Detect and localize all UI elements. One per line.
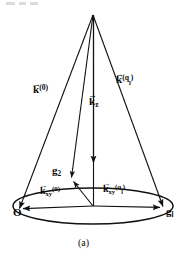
vector-arrow-icon: → (115, 70, 124, 79)
label-k-xy-zero: →kxy(0) (40, 186, 60, 198)
vector-symbol-k: →k (116, 74, 122, 85)
vector-k-ql (93, 15, 163, 207)
vector-symbol-k: →k (89, 96, 95, 107)
label-k-zero: →k(0) (33, 84, 48, 95)
vector-k-xy-ql (93, 206, 160, 207)
vector-arrow-icon: → (32, 80, 41, 89)
vector-arrow-icon: → (39, 182, 47, 190)
figure-container: →k(0) →k(ql) →kz →kxy(0) →kxy(ql) g2 O g… (0, 0, 184, 261)
label-k-ql: →k(ql) (116, 74, 133, 87)
label-g-two: g2 (52, 165, 61, 178)
vector-k-xy-g2 (74, 182, 94, 207)
vector-arrow-icon: → (102, 180, 110, 188)
vector-arrow-icon: → (88, 91, 97, 100)
cone-diagram-svg (0, 0, 184, 261)
label-k-xy-ql: →kxy(ql) (103, 184, 125, 196)
vector-symbol-k: →k (103, 184, 109, 194)
vector-k-zero (20, 15, 94, 209)
vector-symbol-k: →k (40, 186, 46, 196)
label-origin: O (13, 207, 22, 218)
label-g-l: gl (166, 206, 173, 219)
vector-k-xy-zero (23, 206, 93, 209)
figure-caption: (a) (78, 238, 89, 248)
label-k-z: →kz (89, 96, 98, 109)
vector-symbol-k: →k (33, 84, 39, 95)
